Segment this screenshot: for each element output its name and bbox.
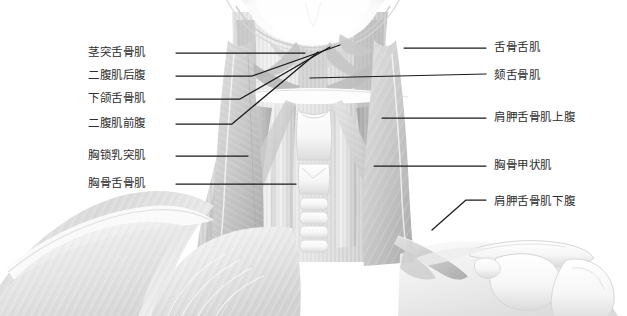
- label-hyoglossus: 舌骨舌肌: [494, 42, 540, 54]
- label-sternocleidomastoid: 胸锁乳突肌: [88, 150, 146, 162]
- label-styloglossus: 茎突舌骨肌: [88, 47, 146, 59]
- label-styloglossus-text: 茎突舌骨肌: [88, 45, 146, 59]
- label-mylohyoid-text: 下颌舌骨肌: [88, 91, 146, 105]
- label-omohyoid-superior-text: 肩胛舌骨肌上腹: [494, 110, 575, 124]
- label-sternothyroid: 胸骨甲状肌: [494, 160, 552, 172]
- label-digastric-anterior-text: 二腹肌前腹: [88, 116, 146, 130]
- label-geniohyoid-text: 颏舌骨肌: [494, 68, 540, 82]
- label-omohyoid-inferior: 肩胛舌骨肌下腹: [494, 196, 575, 208]
- label-sternohyoid-text: 胸骨舌骨肌: [88, 176, 146, 190]
- label-sternothyroid-text: 胸骨甲状肌: [494, 158, 552, 172]
- label-digastric-anterior: 二腹肌前腹: [88, 118, 146, 130]
- label-hyoglossus-text: 舌骨舌肌: [494, 40, 540, 54]
- label-omohyoid-inferior-text: 肩胛舌骨肌下腹: [494, 194, 575, 208]
- label-geniohyoid: 颏舌骨肌: [494, 70, 540, 82]
- label-sternohyoid: 胸骨舌骨肌: [88, 178, 146, 190]
- anatomy-figure: 茎突舌骨肌 二腹肌后腹 下颌舌骨肌 二腹肌前腹 胸锁乳突肌 胸骨舌骨肌 舌骨舌肌…: [0, 0, 627, 316]
- label-omohyoid-superior: 肩胛舌骨肌上腹: [494, 112, 575, 124]
- label-digastric-posterior: 二腹肌后腹: [88, 70, 146, 82]
- label-mylohyoid: 下颌舌骨肌: [88, 93, 146, 105]
- label-sternocleidomastoid-text: 胸锁乳突肌: [88, 148, 146, 162]
- label-digastric-posterior-text: 二腹肌后腹: [88, 68, 146, 82]
